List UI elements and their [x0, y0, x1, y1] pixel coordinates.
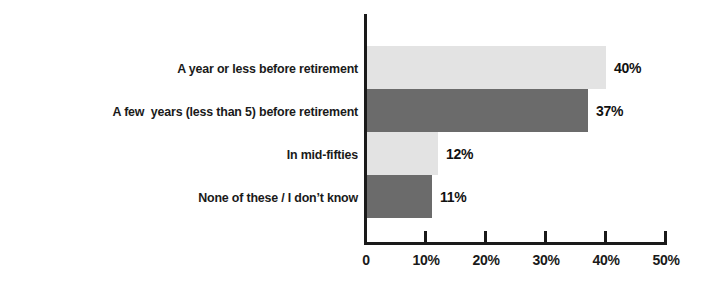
value-label-2: 12%	[446, 147, 473, 161]
y-axis-line	[364, 14, 367, 244]
bar-0	[366, 46, 606, 89]
value-label-0: 40%	[614, 61, 641, 75]
category-label-3: None of these / I don’t know	[45, 191, 358, 205]
value-label-3: 11%	[440, 190, 466, 204]
x-tick-label-4: 40%	[592, 252, 619, 268]
x-tick-label-2: 20%	[472, 252, 499, 268]
bar-chart: A year or less before retirement A few y…	[0, 0, 718, 296]
x-tick-label-1: 10%	[412, 252, 439, 268]
x-tick-label-5: 50%	[652, 252, 679, 268]
x-axis-line	[364, 242, 667, 245]
category-label-2: In mid-fifties	[45, 148, 358, 162]
x-tick-5	[664, 231, 667, 243]
bar-1	[366, 89, 588, 132]
x-tick-label-3: 30%	[532, 252, 559, 268]
bar-2	[366, 132, 438, 175]
category-label-0: A year or less before retirement	[45, 62, 358, 76]
value-label-1: 37%	[596, 104, 623, 118]
x-tick-label-0: 0	[362, 252, 370, 268]
x-tick-0	[364, 231, 367, 243]
bar-3	[366, 175, 432, 218]
x-tick-4	[604, 231, 607, 243]
x-tick-3	[544, 231, 547, 243]
x-tick-1	[424, 231, 427, 243]
category-label-1: A few years (less than 5) before retirem…	[45, 105, 358, 119]
x-tick-2	[484, 231, 487, 243]
